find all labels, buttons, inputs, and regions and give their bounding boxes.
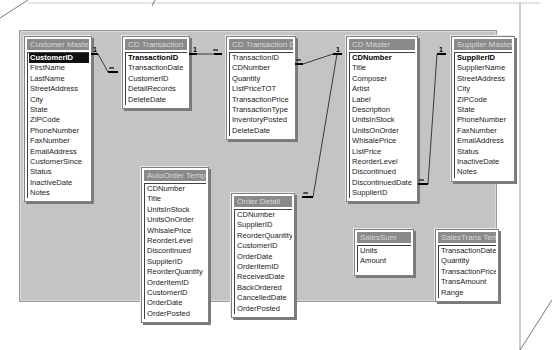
table-salestrans-temp[interactable]: SalesTrans Temp TransactionDate Quantity…	[435, 229, 499, 302]
table-salessum[interactable]: SalesSum Units Amount	[354, 229, 414, 276]
field[interactable]: ReorderLevel	[351, 157, 415, 167]
table-title[interactable]: SalesSum	[357, 232, 411, 243]
field[interactable]: TransAmount	[440, 277, 496, 287]
field[interactable]: ZIPCode	[456, 95, 512, 105]
field[interactable]: TransactionType	[231, 105, 293, 115]
field[interactable]: SupplierName	[456, 63, 512, 73]
field[interactable]: ReorderQuantity	[146, 267, 206, 277]
field[interactable]: OrderDate	[146, 298, 206, 308]
field[interactable]: Amount	[359, 256, 411, 266]
table-title[interactable]: SalesTrans Temp	[438, 232, 496, 243]
field[interactable]: SupplierID	[236, 220, 292, 230]
field[interactable]: PhoneNumber	[29, 126, 89, 136]
table-cd-transaction[interactable]: CD Transaction TransactionID Transaction…	[122, 36, 190, 109]
field[interactable]: OrderPosted	[146, 309, 206, 319]
table-supplier-master[interactable]: Supplier Master SupplierID SupplierName …	[451, 36, 515, 182]
field[interactable]: EmailAddress	[456, 136, 512, 146]
field[interactable]: Status	[29, 167, 89, 177]
field[interactable]: Description	[351, 105, 415, 115]
field[interactable]: Label	[351, 95, 415, 105]
field[interactable]: UnitsInStock	[146, 205, 206, 215]
field[interactable]: UnitsInStock	[351, 115, 415, 125]
field[interactable]: Artist	[351, 84, 415, 94]
field[interactable]: CustomerSince	[29, 157, 89, 167]
field[interactable]: PhoneNumber	[456, 115, 512, 125]
field[interactable]: CDNumber	[146, 184, 206, 194]
field[interactable]: OrderItemID	[236, 262, 292, 272]
table-autoorder-temp[interactable]: AutoOrder Temp CDNumber Title UnitsInSto…	[141, 167, 209, 323]
field[interactable]: StreetAddress	[456, 74, 512, 84]
field[interactable]: BackOrdered	[236, 283, 292, 293]
field[interactable]: CustomerID	[146, 288, 206, 298]
field[interactable]: ZIPCode	[29, 115, 89, 125]
field[interactable]: TransactionPrice	[440, 267, 496, 277]
field[interactable]: InventoryPosted	[231, 115, 293, 125]
field[interactable]: City	[456, 84, 512, 94]
table-title[interactable]: Supplier Master	[454, 39, 512, 50]
table-customer-master[interactable]: Customer Master CustomerID FirstName Las…	[24, 36, 92, 202]
field[interactable]: CustomerID	[236, 241, 292, 251]
field[interactable]: LastName	[29, 74, 89, 84]
field[interactable]: Units	[359, 246, 411, 256]
table-title[interactable]: AutoOrder Temp	[144, 170, 206, 181]
field[interactable]: ListPriceTOT	[231, 84, 293, 94]
field[interactable]: Status	[456, 147, 512, 157]
field[interactable]: SupplierID	[351, 188, 415, 198]
field[interactable]: ReorderLevel	[146, 236, 206, 246]
field[interactable]: OrderItemID	[146, 278, 206, 288]
field-supplier-id[interactable]: SupplierID	[456, 53, 512, 63]
table-title[interactable]: Order Detail	[234, 196, 292, 207]
table-title[interactable]: CD Master	[349, 39, 415, 50]
field[interactable]: Title	[146, 194, 206, 204]
field-cd-number[interactable]: CDNumber	[351, 53, 415, 63]
field[interactable]: Composer	[351, 74, 415, 84]
field[interactable]: TransactionID	[231, 53, 293, 63]
table-cd-master[interactable]: CD Master CDNumber Title Composer Artist…	[346, 36, 418, 202]
field[interactable]: DeleteDate	[231, 126, 293, 136]
table-order-detail[interactable]: Order Detail CDNumber SupplierID Reorder…	[231, 193, 295, 318]
field[interactable]: ReorderQuantity	[236, 231, 292, 241]
table-cd-transaction-detail[interactable]: CD Transaction Detail TransactionID CDNu…	[226, 36, 296, 140]
field[interactable]: City	[29, 95, 89, 105]
field[interactable]: TransactionDate	[440, 246, 496, 256]
table-title[interactable]: CD Transaction	[125, 39, 187, 50]
field[interactable]: Quantity	[440, 256, 496, 266]
table-title[interactable]: CD Transaction Detail	[229, 39, 293, 50]
field[interactable]: UnitsOnOrder	[351, 126, 415, 136]
field[interactable]: Quantity	[231, 74, 293, 84]
field[interactable]: InactiveDate	[456, 157, 512, 167]
field[interactable]: UnitsOnOrder	[146, 215, 206, 225]
field[interactable]: Range	[440, 288, 496, 298]
field[interactable]: CDNumber	[236, 210, 292, 220]
field[interactable]: WhlsalePrice	[146, 226, 206, 236]
field[interactable]: FaxNumber	[29, 136, 89, 146]
field[interactable]: CustomerID	[127, 74, 187, 84]
table-title[interactable]: Customer Master	[27, 39, 89, 50]
field[interactable]: DetailRecords	[127, 84, 187, 94]
field[interactable]: State	[456, 105, 512, 115]
field[interactable]: Notes	[456, 167, 512, 177]
field[interactable]: ListPrice	[351, 147, 415, 157]
field[interactable]: State	[29, 105, 89, 115]
field[interactable]: SupplierID	[146, 257, 206, 267]
field[interactable]: OrderPosted	[236, 304, 292, 314]
field[interactable]: CDNumber	[231, 63, 293, 73]
field-customer-id[interactable]: CustomerID	[29, 53, 89, 63]
field[interactable]: InactiveDate	[29, 178, 89, 188]
field[interactable]: ReceivedDate	[236, 272, 292, 282]
field[interactable]: Title	[351, 63, 415, 73]
field[interactable]: OrderDate	[236, 252, 292, 262]
field[interactable]: StreetAddress	[29, 84, 89, 94]
field[interactable]: Discontinued	[146, 246, 206, 256]
field[interactable]: Discontinued	[351, 167, 415, 177]
field-transaction-id[interactable]: TransactionID	[127, 53, 187, 63]
field[interactable]: DeleteDate	[127, 95, 187, 105]
field[interactable]: Notes	[29, 188, 89, 198]
field[interactable]: TransactionPrice	[231, 95, 293, 105]
field[interactable]: FaxNumber	[456, 126, 512, 136]
field[interactable]: WhlsalePrice	[351, 136, 415, 146]
field[interactable]: CancelledDate	[236, 293, 292, 303]
field[interactable]: DiscontinuedDate	[351, 178, 415, 188]
field[interactable]: EmailAddress	[29, 147, 89, 157]
field[interactable]: FirstName	[29, 63, 89, 73]
